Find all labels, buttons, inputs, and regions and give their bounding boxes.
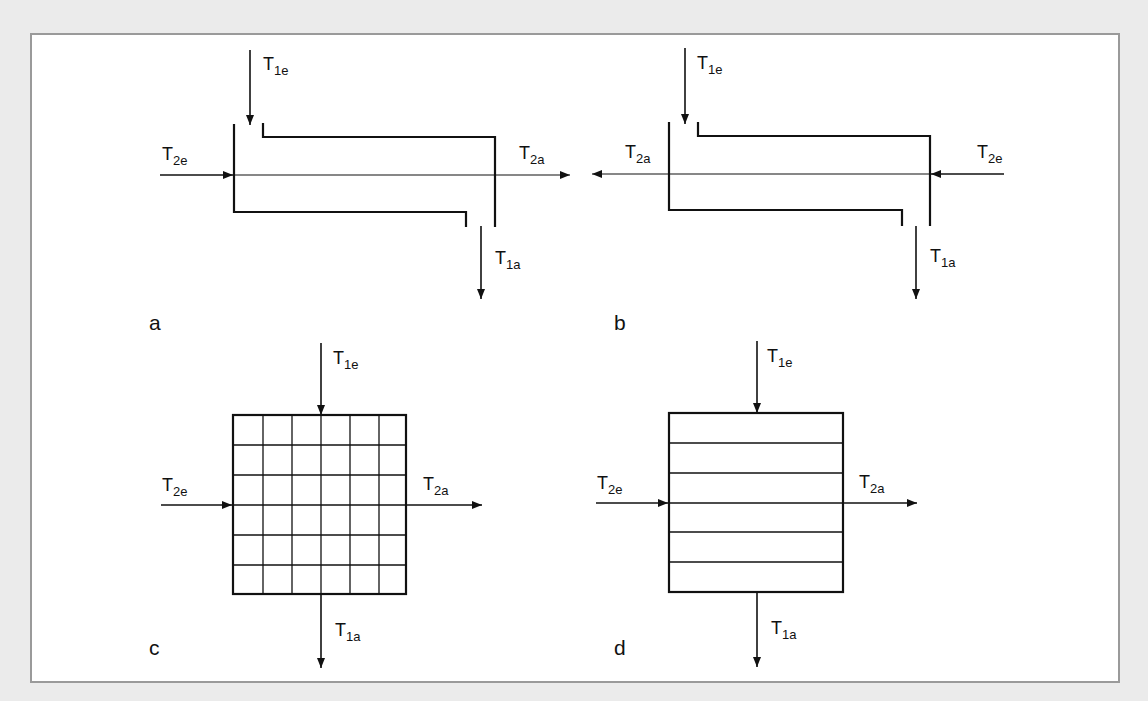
label-t2e: T2e xyxy=(162,475,187,499)
diagram-c-cross-flow-grid: T1e T2e T2a T1a c xyxy=(149,343,482,668)
label-t1a: T1a xyxy=(335,620,361,644)
label-t1a: T1a xyxy=(930,246,956,270)
shell-bottom xyxy=(669,210,902,226)
label-t1a: T1a xyxy=(495,248,521,272)
label-t2a: T2a xyxy=(859,472,885,496)
shell-bottom xyxy=(234,212,466,227)
label-t1e: T1e xyxy=(697,53,722,77)
label-t2e: T2e xyxy=(977,142,1002,166)
panel-letter-a: a xyxy=(149,311,161,334)
label-t2e: T2e xyxy=(162,144,187,168)
channel-lines xyxy=(669,443,843,562)
panel-letter-c: c xyxy=(149,636,160,659)
label-t2a: T2a xyxy=(519,143,545,167)
label-t1e: T1e xyxy=(333,348,358,372)
panel-letter-b: b xyxy=(614,311,626,334)
label-t2a: T2a xyxy=(625,142,651,166)
label-t1e: T1e xyxy=(767,346,792,370)
label-t2e: T2e xyxy=(597,473,622,497)
label-t2a: T2a xyxy=(423,474,449,498)
grid-lines xyxy=(233,415,406,594)
label-t1e: T1e xyxy=(263,54,288,78)
diagram-a-parallel-flow: T1e T2e T2a T1a a xyxy=(149,50,570,334)
panel-letter-d: d xyxy=(614,636,626,659)
heat-exchanger-figure: T1e T2e T2a T1a a T1e T2a T2e T1a b xyxy=(0,0,1148,701)
label-t1a: T1a xyxy=(771,618,797,642)
diagram-b-counter-flow: T1e T2a T2e T1a b xyxy=(592,48,1004,334)
diagram-d-cross-flow-channels: T1e T2e T2a T1a d xyxy=(596,341,917,667)
